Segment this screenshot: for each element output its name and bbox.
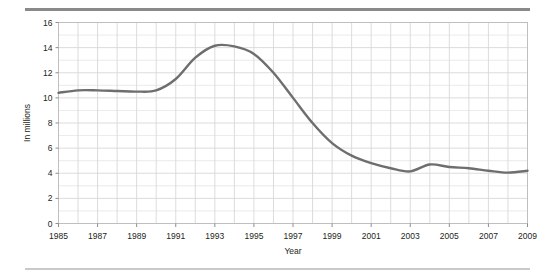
- y-tick-label: 8: [48, 118, 53, 128]
- figure: 0246810121416 19851987198919911993199519…: [0, 0, 556, 280]
- x-tick-label: 1987: [88, 231, 107, 241]
- y-tick-label: 12: [43, 68, 53, 78]
- x-tick-label: 2007: [479, 231, 498, 241]
- y-tick-label: 14: [43, 43, 53, 53]
- x-tick-label: 2005: [440, 231, 459, 241]
- x-tick-label: 1997: [284, 231, 303, 241]
- x-tick-label: 1989: [127, 231, 146, 241]
- y-tick-label: 6: [48, 143, 53, 153]
- y-tick-label: 4: [48, 168, 53, 178]
- x-tick-label: 1993: [205, 231, 224, 241]
- x-axis-title: Year: [284, 246, 301, 256]
- y-tick-label: 16: [43, 18, 53, 28]
- line-chart: 0246810121416 19851987198919911993199519…: [0, 0, 556, 280]
- x-axis-ticks: 1985198719891991199319951997199920012003…: [49, 224, 537, 241]
- gridlines: [59, 23, 528, 224]
- x-tick-label: 2001: [362, 231, 381, 241]
- chart-canvas: 0246810121416 19851987198919911993199519…: [0, 0, 556, 280]
- y-tick-label: 10: [43, 93, 53, 103]
- y-tick-label: 2: [48, 193, 53, 203]
- x-tick-label: 1991: [166, 231, 185, 241]
- x-tick-label: 2009: [518, 231, 537, 241]
- x-tick-label: 1985: [49, 231, 68, 241]
- x-tick-label: 1999: [323, 231, 342, 241]
- y-tick-label: 0: [48, 219, 53, 229]
- y-axis-ticks: 0246810121416: [43, 18, 58, 229]
- y-axis-title: In millions: [22, 104, 32, 142]
- x-tick-label: 2003: [401, 231, 420, 241]
- x-tick-label: 1995: [244, 231, 263, 241]
